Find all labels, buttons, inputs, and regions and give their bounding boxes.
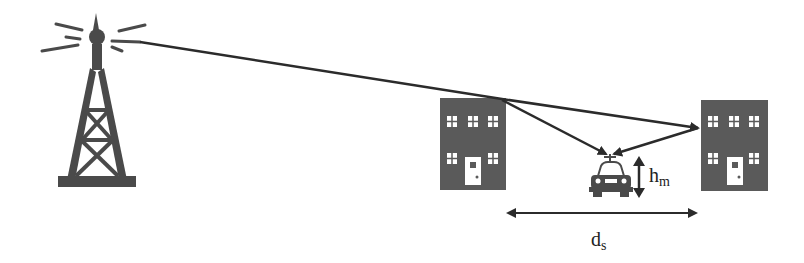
building-right-icon xyxy=(701,100,768,191)
signal-paths xyxy=(140,42,698,154)
car-icon xyxy=(590,154,632,196)
building-left-icon xyxy=(440,98,506,190)
propagation-diagram xyxy=(0,0,804,263)
distance-label: ds xyxy=(591,228,606,254)
distance-arrow xyxy=(506,208,698,218)
height-label: hm xyxy=(649,164,670,190)
antenna-tower-icon xyxy=(42,13,145,187)
height-arrow xyxy=(633,156,645,198)
